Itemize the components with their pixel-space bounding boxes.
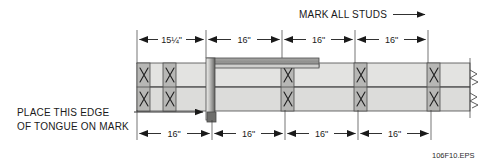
- bottom-dimension-row: 16" 16" 16" 16": [140, 129, 429, 139]
- bottom-extension-lines: [137, 110, 431, 140]
- dimension-bottom-1: 16": [140, 129, 210, 139]
- break-symbol-bottom: [470, 93, 478, 108]
- tape-measure-blade: [213, 64, 319, 68]
- figure-id-label: 106F10.EPS: [432, 151, 475, 160]
- note-place-edge-line2: OF TONGUE ON MARK: [17, 121, 129, 132]
- dimension-bottom-2: 16": [215, 129, 283, 139]
- note-place-edge-line1: PLACE THIS EDGE: [17, 107, 109, 118]
- note-mark-all-studs: MARK ALL STUDS: [299, 9, 425, 20]
- figure-canvas: MARK ALL STUDS 15¼" 16": [0, 0, 497, 164]
- tape-measure-hook: [207, 112, 216, 122]
- dimension-label: 15¼": [161, 35, 182, 45]
- note-mark-all-studs-label: MARK ALL STUDS: [299, 9, 387, 20]
- dimension-top-2: 16": [209, 35, 280, 45]
- break-symbol-top: [470, 70, 478, 85]
- dimension-label: 16": [315, 129, 328, 139]
- dimension-label: 16": [312, 35, 325, 45]
- dimension-label: 16": [237, 35, 250, 45]
- dimension-bottom-4: 16": [361, 129, 429, 139]
- dimension-bottom-3: 16": [288, 129, 356, 139]
- top-dimension-row: 15¼" 16" 16" 16": [140, 35, 426, 45]
- dimension-label: 16": [167, 129, 180, 139]
- stud-layout-diagram: MARK ALL STUDS 15¼" 16": [0, 0, 497, 164]
- dimension-top-4: 16": [358, 35, 426, 45]
- dimension-label: 16": [242, 129, 255, 139]
- dimension-top-3: 16": [285, 35, 353, 45]
- dimension-label: 16": [388, 129, 401, 139]
- tape-measure-tongue[interactable]: [206, 58, 215, 120]
- dimension-top-1: 15¼": [140, 35, 204, 45]
- bottom-plate-board: [137, 87, 470, 111]
- break-lines: [470, 58, 478, 118]
- dimension-label: 16": [385, 35, 398, 45]
